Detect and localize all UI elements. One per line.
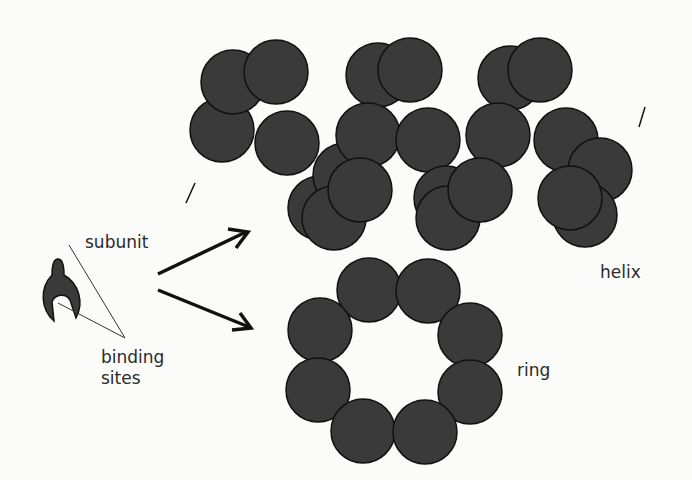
subunit-disc (378, 38, 442, 102)
subunit-disc (438, 303, 502, 367)
arrow-to-ring (158, 290, 251, 330)
ring-label: ring (517, 360, 550, 380)
subunit-disc (331, 399, 395, 463)
binding-sites-label-line1: binding (101, 347, 164, 367)
arrow-to-helix (158, 229, 248, 274)
self-assembly-diagram: subunit binding sites helix ring (0, 0, 692, 480)
helix-assembly (190, 38, 632, 250)
subunit-disc (538, 166, 602, 230)
subunit-disc (466, 103, 530, 167)
subunit-disc (255, 111, 319, 175)
subunit-disc (448, 158, 512, 222)
subunit-disc (393, 400, 457, 464)
binding-sites-label-line2: sites (101, 368, 141, 388)
subunit-label: subunit (85, 232, 148, 252)
subunit-disc (336, 103, 400, 167)
subunit-disc (328, 158, 392, 222)
subunit-disc (244, 40, 308, 104)
subunit-disc (288, 298, 352, 362)
helix-label: helix (600, 262, 641, 282)
ring-assembly (286, 258, 502, 464)
subunit-disc (508, 38, 572, 102)
subunit-disc (396, 108, 460, 172)
